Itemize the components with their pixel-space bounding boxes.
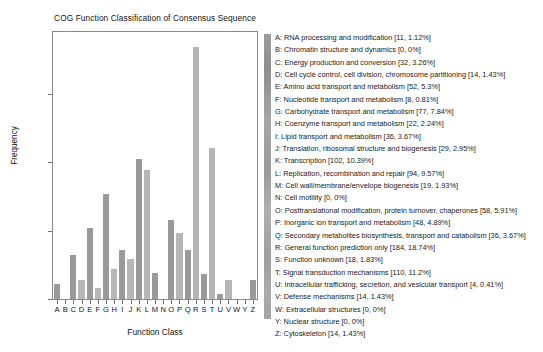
x-tick-mark [163,300,164,304]
x-tick-mark [171,300,172,304]
x-tick-mark [114,300,115,304]
legend-item: N: Cell motility [0, 0%] [275,192,543,204]
y-tick-mark [48,299,52,300]
legend-item: P: Inorganic ion transport and metabolis… [275,217,543,229]
chart-title: COG Function Classification of Consensus… [52,13,258,23]
bar-M [152,273,158,299]
legend-item: F: Nucleotide transport and metabolism [… [275,94,543,106]
x-tick-mark [212,300,213,304]
legend-item: Z: Cytoskeleton [14, 1.43%] [275,328,543,340]
y-tick-mark [48,94,52,95]
x-tick-mark [253,300,254,304]
bar-A [54,284,60,299]
legend-item: E: Amino acid transport and metabolism [… [275,81,543,93]
legend-item: G: Carbohydrate transport and metabolism… [275,106,543,118]
y-axis-label: Frequency [10,101,19,191]
legend-item: I: Lipid transport and metabolism [36, 3… [275,131,543,143]
bar-F [95,288,101,299]
legend-item: H: Coenzyme transport and metabolism [22… [275,118,543,130]
legend-gradient-bar-icon [264,34,271,319]
bar-J [127,259,133,299]
bar-V [225,280,231,299]
bar-series [53,32,257,299]
legend-item: Q: Secondary metabolites biosynthesis, t… [275,230,543,242]
x-axis-label: Function Class [52,327,258,337]
bar-Z [250,280,256,299]
legend-item: B: Chromatin structure and dynamics [0, … [275,44,543,56]
legend-item-list: A: RNA processing and modification [11, … [275,32,543,341]
bar-I [119,250,125,299]
legend: A: RNA processing and modification [11, … [262,34,543,320]
x-tick-mark [228,300,229,304]
x-tick-mark [57,300,58,304]
legend-item: S: Function unknown [18, 1.83%] [275,254,543,266]
legend-item: M: Cell wall/membrane/envelope biogenesi… [275,180,543,192]
legend-item: W: Extracellular structures [0, 0%] [275,304,543,316]
bar-D [78,280,84,299]
legend-item: A: RNA processing and modification [11, … [275,32,543,44]
y-tick-mark [48,231,52,232]
x-tick-mark [122,300,123,304]
legend-item: Y: Nuclear structure [0, 0%] [275,316,543,328]
legend-item: R: General function prediction only [184… [275,242,543,254]
bar-G [103,194,109,299]
x-tick-mark [204,300,205,304]
x-tick-mark [179,300,180,304]
bar-S [201,274,207,299]
bar-P [176,233,182,299]
bar-K [136,159,142,299]
x-tick-label-Z: Z [247,306,259,314]
bar-L [144,170,150,299]
legend-item: U: Intracellular trafficking, secretion,… [275,279,543,291]
x-tick-mark [82,300,83,304]
x-tick-mark [131,300,132,304]
bar-R [193,47,199,299]
x-tick-mark [245,300,246,304]
x-tick-mark [188,300,189,304]
x-tick-mark [98,300,99,304]
bar-T [209,148,215,299]
x-tick-mark [237,300,238,304]
legend-item: C: Energy production and conversion [32,… [275,57,543,69]
y-tick-mark [48,162,52,163]
x-tick-mark [147,300,148,304]
x-tick-mark [196,300,197,304]
bar-U [217,294,223,299]
x-tick-mark [73,300,74,304]
cog-classification-figure: COG Function Classification of Consensus… [0,0,268,352]
x-tick-mark [139,300,140,304]
legend-item: O: Posttranslational modification, prote… [275,205,543,217]
legend-item: J: Translation, ribosomal structure and … [275,143,543,155]
bar-H [111,269,117,299]
legend-item: V: Defense mechanisms [14, 1.43%] [275,291,543,303]
legend-item: K: Transcription [102, 10.39%] [275,155,543,167]
x-tick-mark [155,300,156,304]
bar-Q [185,250,191,299]
x-tick-mark [106,300,107,304]
legend-item: D: Cell cycle control, cell division, ch… [275,69,543,81]
bar-C [70,255,76,299]
x-tick-mark [65,300,66,304]
legend-item: T: Signal transduction mechanisms [110, … [275,267,543,279]
x-tick-mark [90,300,91,304]
legend-item: L: Replication, recombination and repair… [275,168,543,180]
bar-E [87,228,93,299]
x-tick-mark [220,300,221,304]
bar-O [168,220,174,299]
